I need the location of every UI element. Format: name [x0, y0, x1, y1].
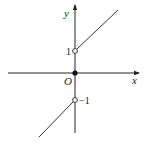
- upper-branch-line: [77, 10, 119, 50]
- lower-branch-line: [39, 102, 74, 138]
- origin-label: O: [64, 75, 72, 87]
- tick-label-neg1: −1: [79, 95, 90, 106]
- function-graph: y x O 1 −1: [0, 0, 144, 152]
- open-point-at-1: [73, 49, 78, 54]
- filled-point-origin: [72, 70, 77, 75]
- tick-label-1: 1: [66, 46, 71, 57]
- x-axis-label: x: [131, 74, 137, 86]
- open-point-at-neg1: [73, 98, 78, 103]
- y-axis-label: y: [63, 7, 69, 19]
